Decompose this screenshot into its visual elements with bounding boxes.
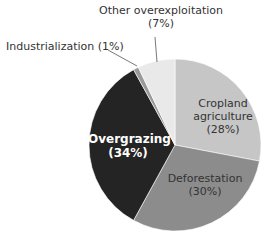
label-cropland-agriculture: Cropland agriculture (28%)	[183, 97, 263, 136]
cropland-label-line1: Cropland	[183, 97, 263, 110]
overgrazing-label-pct: (34%)	[88, 146, 168, 160]
cropland-label-pct: (28%)	[183, 123, 263, 136]
label-industrialization: Industrialization (1%)	[6, 40, 124, 53]
deforestation-label-pct: (30%)	[160, 185, 250, 198]
deforestation-label-text: Deforestation	[160, 172, 250, 185]
overgrazing-label-text: Overgrazing	[88, 132, 168, 146]
other-label-text: Other overexploitation	[96, 4, 226, 17]
label-overgrazing: Overgrazing (34%)	[88, 132, 168, 160]
industrialization-label-text: Industrialization (1%)	[6, 40, 124, 53]
label-other-overexploitation: Other overexploitation (7%)	[96, 4, 226, 30]
other-leader-line	[155, 37, 157, 62]
other-label-pct: (7%)	[96, 17, 226, 30]
label-deforestation: Deforestation (30%)	[160, 172, 250, 198]
cropland-label-line2: agriculture	[183, 110, 263, 123]
